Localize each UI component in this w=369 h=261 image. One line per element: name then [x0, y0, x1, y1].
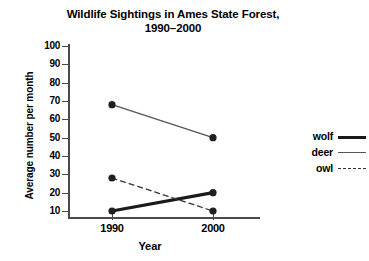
legend-item-wolf[interactable]: wolf [288, 128, 366, 144]
chart-figure: Wildlife Sightings in Ames State Forest,… [0, 0, 369, 261]
legend-label-owl: owl [316, 162, 333, 174]
legend-item-owl[interactable]: owl [288, 160, 366, 176]
legend-label-wolf: wolf [313, 130, 333, 142]
data-point-deer [209, 134, 216, 141]
series-deer [108, 101, 216, 141]
series-line-deer [112, 105, 213, 138]
data-point-deer [108, 101, 115, 108]
data-point-wolf [108, 207, 115, 214]
series-wolf [108, 189, 216, 215]
data-point-wolf [209, 189, 216, 196]
data-point-owl [108, 174, 115, 181]
legend-swatch-wolf [338, 131, 366, 141]
legend-swatch-owl [338, 163, 366, 173]
legend-item-deer[interactable]: deer [288, 144, 366, 160]
legend-swatch-deer [338, 147, 366, 157]
legend-label-deer: deer [312, 146, 333, 158]
data-point-owl [209, 207, 216, 214]
chart-legend: wolfdeerowl [288, 128, 366, 176]
series-line-wolf [112, 193, 213, 211]
